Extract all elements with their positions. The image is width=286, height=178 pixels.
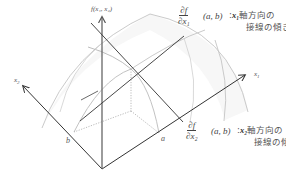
x2-axis bbox=[23, 86, 102, 169]
tangent-x1-segment bbox=[81, 91, 98, 100]
point-a-label: a bbox=[161, 135, 165, 143]
x1-axis bbox=[102, 75, 245, 169]
construction-lines bbox=[74, 69, 159, 133]
f-axis-label: f(x₁, x₂) bbox=[91, 6, 112, 13]
point-b-label: b bbox=[66, 137, 70, 145]
x2-axis-label: x2 bbox=[14, 77, 20, 85]
surface-diagram bbox=[0, 0, 286, 178]
x1-axis-label: x1 bbox=[254, 71, 260, 79]
surface bbox=[42, 14, 248, 133]
